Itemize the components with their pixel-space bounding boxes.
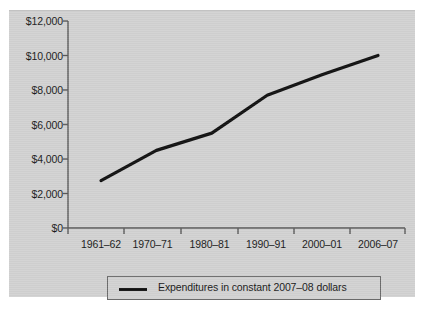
- legend-line-swatch: [119, 288, 147, 291]
- y-tick-label-4000: $4,000: [9, 153, 63, 165]
- x-axis-ticks: [68, 228, 405, 234]
- plot-area: [9, 10, 415, 297]
- data-series-line: [101, 56, 378, 181]
- y-tick-label-0: $0: [9, 222, 63, 234]
- x-tick-label-2006-07: 2006–07: [343, 238, 413, 250]
- y-axis-ticks: [63, 21, 68, 228]
- chart-figure: $12,000 $10,000 $8,000 $6,000 $4,000 $2,…: [0, 0, 423, 309]
- legend-label: Expenditures in constant 2007–08 dollars: [158, 281, 347, 293]
- y-tick-label-2000: $2,000: [9, 188, 63, 200]
- y-tick-label-6000: $6,000: [9, 119, 63, 131]
- y-tick-label-10000: $10,000: [9, 50, 63, 62]
- y-tick-label-12000: $12,000: [9, 15, 63, 27]
- chart-legend: Expenditures in constant 2007–08 dollars: [107, 276, 381, 300]
- chart-panel: $12,000 $10,000 $8,000 $6,000 $4,000 $2,…: [9, 10, 415, 297]
- y-tick-label-8000: $8,000: [9, 84, 63, 96]
